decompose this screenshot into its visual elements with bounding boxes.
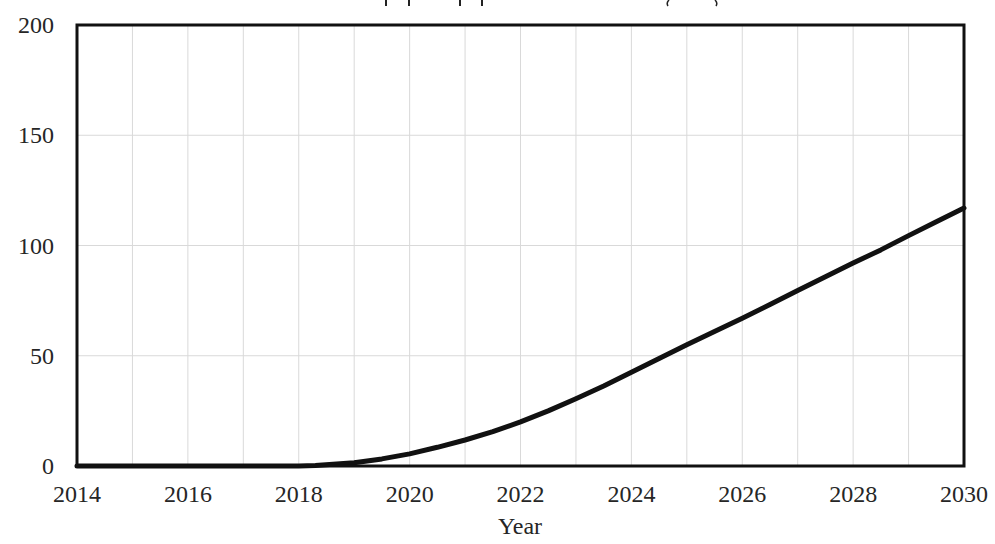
- x-tick-label: 2024: [607, 481, 655, 507]
- y-tick-label: 100: [18, 233, 54, 259]
- y-axis-tick-labels: 050100150200: [18, 12, 54, 479]
- y-tick-label: 0: [42, 453, 54, 479]
- x-tick-label: 2030: [940, 481, 988, 507]
- x-tick-label: 2028: [829, 481, 877, 507]
- x-tick-label: 2022: [497, 481, 545, 507]
- y-tick-label: 150: [18, 122, 54, 148]
- line-chart: 050100150200 201420162018202020222024202…: [0, 0, 995, 544]
- chart-title-cropped: [385, 0, 717, 6]
- y-tick-label: 50: [30, 343, 54, 369]
- grid-lines: [77, 25, 964, 466]
- x-tick-label: 2018: [275, 481, 323, 507]
- y-tick-label: 200: [18, 12, 54, 38]
- x-axis-title: Year: [498, 513, 542, 539]
- x-tick-label: 2026: [718, 481, 766, 507]
- x-tick-label: 2020: [386, 481, 434, 507]
- x-tick-label: 2016: [164, 481, 212, 507]
- x-axis-tick-labels: 201420162018202020222024202620282030: [53, 481, 988, 507]
- x-tick-label: 2014: [53, 481, 101, 507]
